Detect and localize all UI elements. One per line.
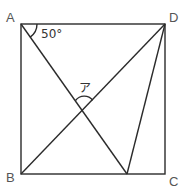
diagonal-bd	[21, 24, 165, 174]
vertex-label-a: A	[6, 10, 15, 25]
segment-a-to-bc	[21, 24, 127, 174]
vertex-label-d: D	[169, 10, 178, 25]
angle-label-50: 50°	[41, 27, 62, 41]
geometry-diagram: A D B C 50° ア	[0, 0, 185, 194]
segment-d-to-bc	[127, 24, 165, 174]
vertex-label-b: B	[6, 170, 15, 185]
vertex-label-c: C	[169, 174, 178, 189]
angle-arc-a	[30, 24, 37, 37]
angle-label-unknown: ア	[79, 81, 91, 95]
angle-arc-unknown	[76, 96, 93, 100]
